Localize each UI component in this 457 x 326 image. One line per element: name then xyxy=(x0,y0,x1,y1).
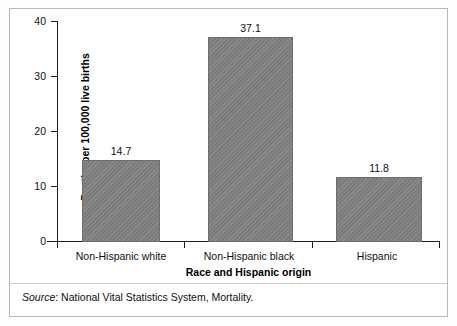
bar-value-non-hispanic-black: 37.1 xyxy=(208,23,293,34)
y-tick-30 xyxy=(51,76,57,77)
bar-value-non-hispanic-white: 14.7 xyxy=(82,146,160,157)
bar-non-hispanic-white[interactable] xyxy=(82,160,160,242)
bar-hispanic[interactable] xyxy=(336,177,422,242)
category-label-non-hispanic-white: Non-Hispanic white xyxy=(58,250,184,262)
x-tick-sep-2 xyxy=(312,242,313,248)
y-tick-label-20: 20 xyxy=(18,126,46,136)
figure-container: Deaths per 100,000 live births 40 30 20 … xyxy=(0,0,457,326)
bar-value-hispanic: 11.8 xyxy=(336,163,422,174)
y-tick-label-30: 30 xyxy=(18,71,46,81)
y-axis-line xyxy=(57,21,58,242)
source-divider xyxy=(10,283,447,284)
y-tick-10 xyxy=(51,186,57,187)
source-note: Source: National Vital Statistics System… xyxy=(22,291,253,303)
x-axis-title: Race and Hispanic origin xyxy=(57,266,440,278)
y-tick-40 xyxy=(51,21,57,22)
x-tick-start xyxy=(57,242,58,248)
y-tick-label-40: 40 xyxy=(18,16,46,26)
category-label-hispanic: Hispanic xyxy=(314,250,440,262)
bar-non-hispanic-black[interactable] xyxy=(208,37,293,242)
source-note-label: Source xyxy=(22,291,55,303)
y-tick-label-10: 10 xyxy=(18,181,46,191)
x-tick-end xyxy=(439,242,440,248)
y-tick-20 xyxy=(51,131,57,132)
category-label-non-hispanic-black: Non-Hispanic black xyxy=(186,250,312,262)
y-tick-label-0: 0 xyxy=(18,236,46,246)
x-tick-sep-1 xyxy=(184,242,185,248)
source-note-text: National Vital Statistics System, Mortal… xyxy=(58,291,253,303)
